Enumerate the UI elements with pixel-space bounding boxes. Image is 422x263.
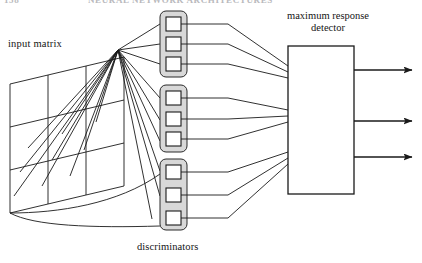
fanin-edge-1b xyxy=(118,44,160,50)
fanout-edge-8 xyxy=(181,158,288,195)
discriminator-3-node-1[interactable] xyxy=(166,165,181,179)
maximum-response-detector-box[interactable] xyxy=(288,46,354,194)
fanout-edge-5 xyxy=(181,116,288,119)
discriminator-1-node-3[interactable] xyxy=(166,57,181,71)
detector-label-line-1: maximum response xyxy=(276,10,380,22)
discriminator-2-node-2[interactable] xyxy=(166,112,181,126)
detector-label: maximum response detector xyxy=(276,10,380,33)
discriminator-2-node-3[interactable] xyxy=(166,132,181,146)
fanout-edge-6 xyxy=(181,122,288,139)
fanout-edges-group xyxy=(181,24,288,218)
discriminator-1-node-1[interactable] xyxy=(166,17,181,31)
fanout-edge-2 xyxy=(181,44,288,72)
diagram-canvas xyxy=(0,0,422,263)
fanin-edge-1a xyxy=(118,24,160,50)
discriminators-label: discriminators xyxy=(137,241,198,253)
input-matrix-base-curve-outer xyxy=(10,213,160,227)
input-matrix-label: input matrix xyxy=(8,38,62,50)
fanout-edge-1 xyxy=(181,24,288,66)
discriminator-2-node-1[interactable] xyxy=(166,91,181,105)
detector-label-line-2: detector xyxy=(276,22,380,34)
discriminator-3-node-2[interactable] xyxy=(166,188,181,202)
output-arrows-group xyxy=(354,70,412,157)
discriminator-1-node-2[interactable] xyxy=(166,37,181,51)
fanout-edge-3 xyxy=(181,64,288,78)
figure-root: 158 NEURAL NETWORK ARCHITECTURES xyxy=(0,0,422,263)
discriminator-3-node-3[interactable] xyxy=(166,211,181,225)
fanout-edge-7 xyxy=(181,152,288,172)
discriminator-group-3[interactable] xyxy=(160,159,187,230)
discriminator-group-2[interactable] xyxy=(160,85,187,152)
fanout-edge-4 xyxy=(181,98,288,110)
